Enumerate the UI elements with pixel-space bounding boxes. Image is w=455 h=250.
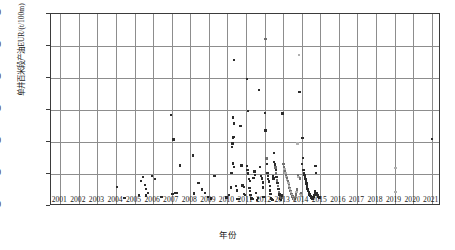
data-point xyxy=(240,164,242,166)
data-point xyxy=(261,177,263,179)
y-tick-mark xyxy=(46,77,50,78)
data-point xyxy=(201,188,203,190)
data-point xyxy=(179,164,181,166)
data-point xyxy=(315,172,317,174)
data-point xyxy=(172,138,174,140)
data-point xyxy=(235,185,237,187)
data-point xyxy=(233,166,235,168)
gridline-vertical xyxy=(357,14,358,204)
data-point xyxy=(266,172,268,174)
scatter-chart-figure: 单井百米段产油EUR/(t/100m) 年份 05001000150020002… xyxy=(0,0,455,250)
gridline-horizontal xyxy=(51,174,439,175)
gridline-vertical xyxy=(265,14,266,204)
data-point xyxy=(249,190,251,192)
data-point xyxy=(269,185,271,187)
data-point xyxy=(116,186,118,188)
gridline-vertical xyxy=(97,14,98,204)
data-point xyxy=(233,59,235,61)
gridline-vertical xyxy=(395,14,396,204)
data-point xyxy=(176,192,178,194)
data-point xyxy=(298,54,300,56)
data-point xyxy=(394,167,396,169)
data-point xyxy=(268,180,270,182)
data-point xyxy=(264,112,266,114)
data-point xyxy=(252,177,254,179)
gridline-vertical xyxy=(60,14,61,204)
y-axis-title: 单井百米段产油EUR/(t/100m) xyxy=(15,0,26,125)
data-point xyxy=(258,89,260,91)
data-point xyxy=(274,163,276,165)
data-point xyxy=(232,162,234,164)
data-point xyxy=(231,146,233,148)
data-point xyxy=(302,169,304,171)
data-point xyxy=(262,181,264,183)
y-tick-label: 2000 xyxy=(0,73,1,81)
data-point xyxy=(213,175,215,177)
data-point xyxy=(254,174,256,176)
y-tick-mark xyxy=(46,205,50,206)
data-point xyxy=(253,170,255,172)
y-tick-mark xyxy=(46,141,50,142)
x-tick-label: 2021 xyxy=(413,196,449,204)
data-point xyxy=(296,142,298,144)
data-point xyxy=(282,163,284,165)
data-point xyxy=(243,186,245,188)
y-tick-mark xyxy=(46,13,50,14)
data-point xyxy=(204,192,206,194)
data-point xyxy=(295,191,297,193)
data-point xyxy=(262,186,264,188)
gridline-horizontal xyxy=(51,46,439,47)
data-point xyxy=(272,177,274,179)
data-point xyxy=(197,182,199,184)
y-tick-label: 500 xyxy=(0,169,1,177)
gridline-vertical xyxy=(413,14,414,204)
gridline-vertical xyxy=(339,14,340,204)
data-point xyxy=(275,176,277,178)
gridline-vertical xyxy=(320,14,321,204)
gridline-horizontal xyxy=(51,142,439,143)
gridline-vertical xyxy=(116,14,117,204)
y-tick-mark xyxy=(46,45,50,46)
data-point xyxy=(275,169,277,171)
data-point xyxy=(246,165,248,167)
data-point xyxy=(239,125,241,127)
gridline-vertical xyxy=(376,14,377,204)
data-point xyxy=(247,110,249,112)
gridline-vertical xyxy=(190,14,191,204)
gridline-vertical xyxy=(209,14,210,204)
gridline-vertical xyxy=(172,14,173,204)
y-tick-label: 3000 xyxy=(0,9,1,17)
data-point xyxy=(232,137,234,139)
data-point xyxy=(144,184,146,186)
plot-area xyxy=(50,13,440,205)
data-point xyxy=(302,157,304,159)
gridline-vertical xyxy=(432,14,433,204)
data-point xyxy=(247,172,249,174)
data-point xyxy=(394,191,396,193)
data-point xyxy=(259,166,261,168)
data-point xyxy=(273,152,275,154)
y-tick-label: 1000 xyxy=(0,137,1,145)
data-point xyxy=(192,154,194,156)
data-point xyxy=(142,176,144,178)
data-point xyxy=(236,189,238,191)
y-tick-mark xyxy=(46,173,50,174)
data-point xyxy=(299,177,301,179)
data-point xyxy=(298,91,300,93)
data-point xyxy=(265,157,267,159)
data-point xyxy=(264,38,266,40)
data-point xyxy=(266,163,268,165)
data-point xyxy=(231,142,233,144)
data-point xyxy=(246,78,248,80)
data-point xyxy=(170,114,172,116)
data-point xyxy=(230,186,232,188)
data-point xyxy=(296,188,298,190)
data-point xyxy=(249,180,251,182)
y-tick-label: 0 xyxy=(0,201,1,209)
data-point xyxy=(431,138,433,140)
data-point xyxy=(232,116,234,118)
data-point xyxy=(246,169,248,171)
data-point xyxy=(301,163,303,165)
data-point xyxy=(264,129,266,131)
data-point xyxy=(154,178,156,180)
